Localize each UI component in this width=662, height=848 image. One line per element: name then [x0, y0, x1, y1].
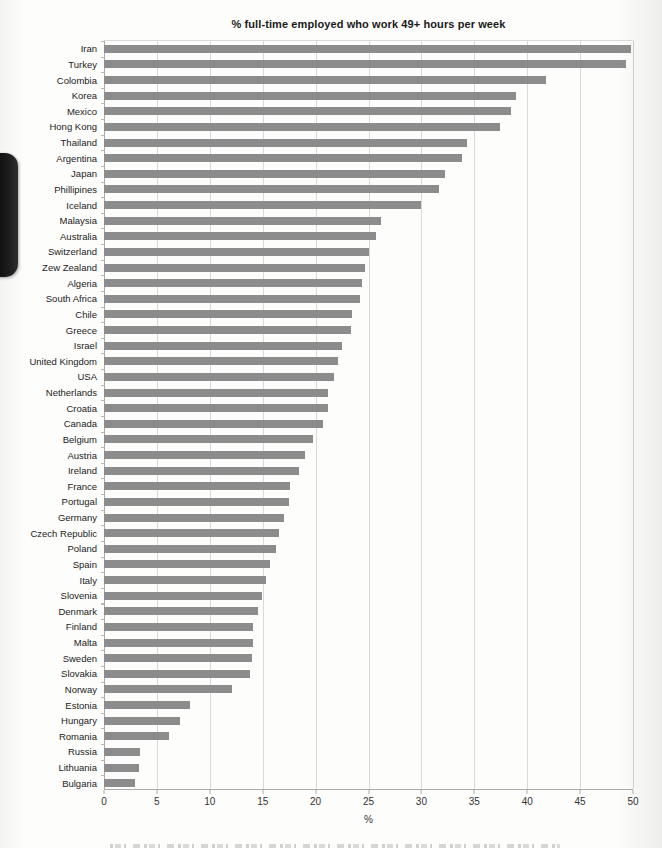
x-tick-mark — [527, 790, 528, 794]
y-axis-label: Malta — [0, 637, 97, 648]
bar-row: Malta — [104, 635, 633, 651]
bar-row: Thailand — [104, 135, 633, 151]
y-axis-label: Lithuania — [0, 762, 97, 773]
plot-area: IranTurkeyColombiaKoreaMexicoHong KongTh… — [104, 40, 633, 790]
bar — [104, 232, 376, 240]
bar — [104, 154, 462, 162]
y-axis-label: Romania — [0, 731, 97, 742]
bar-row: Poland — [104, 541, 633, 557]
y-axis-label: Colombia — [0, 75, 97, 86]
bar-row: Italy — [104, 572, 633, 588]
bar — [104, 404, 328, 412]
bar — [104, 514, 284, 522]
x-axis-title: % — [104, 814, 633, 825]
bar-row: Iceland — [104, 197, 633, 213]
bar — [104, 467, 299, 475]
bar — [104, 342, 342, 350]
bar — [104, 389, 328, 397]
y-axis-label: Poland — [0, 543, 97, 554]
bar-row: Phillipines — [104, 182, 633, 198]
bar-row: Hong Kong — [104, 119, 633, 135]
bar — [104, 670, 250, 678]
y-axis-label: Switzerland — [0, 246, 97, 257]
y-axis-label: Portugal — [0, 496, 97, 507]
bar-row: Malaysia — [104, 213, 633, 229]
y-axis-label: Iran — [0, 43, 97, 54]
bar-row: Sweden — [104, 650, 633, 666]
bar — [104, 60, 626, 68]
bar — [104, 139, 467, 147]
bar — [104, 310, 352, 318]
bar — [104, 764, 139, 772]
bar — [104, 170, 445, 178]
y-axis-label: Czech Republic — [0, 528, 97, 539]
bar-row: Hungary — [104, 713, 633, 729]
bar — [104, 217, 381, 225]
bar — [104, 779, 135, 787]
bar-row: Denmark — [104, 604, 633, 620]
bar-row: Spain — [104, 557, 633, 573]
x-tick-label: 10 — [204, 796, 215, 807]
x-tick-mark — [262, 790, 263, 794]
bar — [104, 76, 546, 84]
bar — [104, 420, 323, 428]
bar-row: Israel — [104, 338, 633, 354]
bar — [104, 123, 500, 131]
bar-row: Germany — [104, 510, 633, 526]
bar — [104, 685, 232, 693]
bar — [104, 701, 190, 709]
bar — [104, 576, 266, 584]
y-axis-label: Argentina — [0, 153, 97, 164]
bar-row: Chile — [104, 307, 633, 323]
x-tick-mark — [633, 790, 634, 794]
bar-row: Finland — [104, 619, 633, 635]
x-tick-label: 35 — [469, 796, 480, 807]
bar — [104, 185, 439, 193]
bar-row: Japan — [104, 166, 633, 182]
bar-row: Zew Zealand — [104, 260, 633, 276]
bar-row: Croatia — [104, 400, 633, 416]
bar-row: Switzerland — [104, 244, 633, 260]
bar-row: Argentina — [104, 150, 633, 166]
x-tick-label: 0 — [101, 796, 107, 807]
bar-row: Russia — [104, 744, 633, 760]
x-tick-label: 40 — [522, 796, 533, 807]
x-tick-mark — [580, 790, 581, 794]
bar-row: Slovakia — [104, 666, 633, 682]
y-axis-label: Canada — [0, 418, 97, 429]
y-axis-label: Korea — [0, 90, 97, 101]
y-axis-label: Slovakia — [0, 668, 97, 679]
bar — [104, 373, 334, 381]
bar — [104, 498, 289, 506]
bar-row: Korea — [104, 88, 633, 104]
bar — [104, 623, 253, 631]
bar — [104, 295, 360, 303]
bar — [104, 717, 180, 725]
y-axis-label: Hong Kong — [0, 121, 97, 132]
bar-row: USA — [104, 369, 633, 385]
y-axis-label: Mexico — [0, 106, 97, 117]
bar — [104, 639, 253, 647]
bar-row: Ireland — [104, 463, 633, 479]
bar — [104, 45, 631, 53]
bar — [104, 748, 140, 756]
y-axis-label: France — [0, 481, 97, 492]
bar — [104, 529, 279, 537]
y-axis-label: Ireland — [0, 465, 97, 476]
bar — [104, 560, 270, 568]
y-axis-label: Chile — [0, 309, 97, 320]
bar — [104, 264, 365, 272]
y-axis-label: Russia — [0, 746, 97, 757]
x-tick-mark — [421, 790, 422, 794]
y-axis-label: South Africa — [0, 293, 97, 304]
x-tick-label: 45 — [575, 796, 586, 807]
bar — [104, 107, 511, 115]
bar — [104, 451, 305, 459]
x-tick-mark — [474, 790, 475, 794]
y-axis-label: Estonia — [0, 700, 97, 711]
y-axis-label: Croatia — [0, 403, 97, 414]
bar-rows: IranTurkeyColombiaKoreaMexicoHong KongTh… — [104, 41, 633, 791]
bar-row: Romania — [104, 729, 633, 745]
x-tick-label: 15 — [257, 796, 268, 807]
y-axis-label: Germany — [0, 512, 97, 523]
